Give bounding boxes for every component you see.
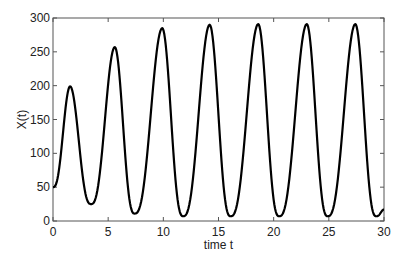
x-tick-label: 15 <box>212 225 226 239</box>
y-tick-label: 100 <box>30 146 50 160</box>
y-tick-label: 250 <box>30 45 50 59</box>
line-chart: 051015202530 050100150200250300 time t X… <box>0 0 401 259</box>
x-tick-label: 30 <box>377 225 391 239</box>
y-tick-label: 200 <box>30 79 50 93</box>
x-tick-label: 20 <box>267 225 281 239</box>
x-axis-label: time t <box>204 238 234 252</box>
x-tick-label: 10 <box>157 225 171 239</box>
x-tick-label: 5 <box>105 225 112 239</box>
y-axis-label: X(t) <box>15 110 29 129</box>
y-tick-label: 50 <box>37 180 51 194</box>
x-tick-label: 0 <box>50 225 57 239</box>
y-tick-label: 300 <box>30 11 50 25</box>
x-tick-label: 25 <box>322 225 336 239</box>
y-tick-label: 150 <box>30 113 50 127</box>
y-tick-label: 0 <box>43 214 50 228</box>
